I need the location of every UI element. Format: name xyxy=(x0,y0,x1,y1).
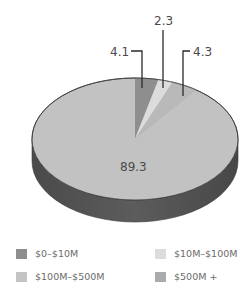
legend-label: $100M–$500M xyxy=(35,271,105,282)
legend-swatch xyxy=(16,272,27,282)
legend-swatch xyxy=(155,272,166,282)
label-2-3: 2.3 xyxy=(154,14,173,28)
legend-item-0-10m: $0–$10M xyxy=(16,248,78,259)
legend-swatch xyxy=(155,249,166,259)
legend-item-100m-500m: $100M–$500M xyxy=(16,271,105,282)
label-4-1: 4.1 xyxy=(110,45,129,59)
legend-label: $10M–$100M xyxy=(174,248,237,259)
label-89-3: 89.3 xyxy=(120,160,147,174)
label-4-3: 4.3 xyxy=(193,45,212,59)
legend-item-500m-plus: $500M + xyxy=(155,271,217,282)
legend-label: $0–$10M xyxy=(35,248,78,259)
legend-label: $500M + xyxy=(174,271,217,282)
legend-item-10m-100m: $10M–$100M xyxy=(155,248,237,259)
legend-swatch xyxy=(16,249,27,259)
